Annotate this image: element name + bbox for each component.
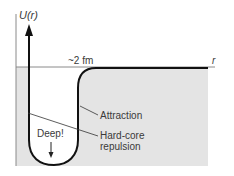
hard-core-label-line1: Hard-core: [100, 130, 144, 141]
hard-core-label-line2: repulsion: [100, 141, 141, 152]
up-arrow-icon: [25, 24, 33, 36]
well-depth-label: Deep!: [37, 128, 64, 139]
y-axis-label: U(r): [19, 10, 38, 21]
x-axis-label: r: [212, 55, 215, 66]
range-label: ~2 fm: [68, 55, 93, 66]
attraction-label: Attraction: [100, 110, 142, 121]
